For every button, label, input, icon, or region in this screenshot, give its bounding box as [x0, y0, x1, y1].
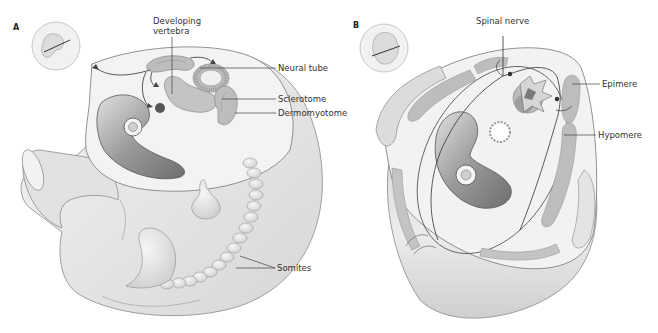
- label-hypomere: Hypomere: [598, 130, 642, 140]
- label-somites: Somites: [277, 263, 311, 273]
- label-epimere: Epimere: [602, 79, 637, 89]
- panel-a-embryo: [18, 47, 322, 316]
- label-dermomyotome: Dermomyotome: [278, 108, 347, 118]
- notochord: [155, 103, 165, 113]
- inset-embryo-a: [32, 22, 80, 70]
- panel-label-b: B: [353, 21, 359, 30]
- panel-label-a: A: [13, 23, 19, 32]
- label-developing-vertebra-1: Developing: [153, 16, 201, 26]
- panel-b-embryo: [376, 36, 597, 318]
- label-developing-vertebra-2: vertebra: [153, 26, 189, 36]
- label-neural-tube: Neural tube: [278, 63, 328, 73]
- label-spinal-nerve: Spinal nerve: [476, 16, 529, 26]
- inset-embryo-b: [360, 24, 408, 72]
- label-sclerotome: Sclerotome: [278, 94, 326, 104]
- aorta-b: [490, 122, 510, 142]
- ganglion-dot: [508, 72, 512, 76]
- diagram-canvas: [0, 0, 658, 333]
